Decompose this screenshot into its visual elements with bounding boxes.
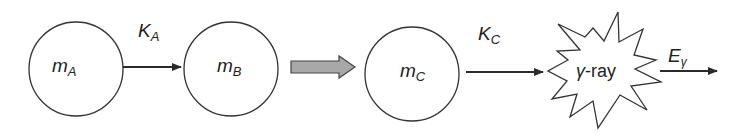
node-m-b: mB [184,22,278,116]
edge-egamma: Eγ [660,45,717,71]
edge-ka: KA [123,20,181,67]
edge-kc: KC [466,23,543,72]
decay-diagram: mA KA mB mC KC γ-ray [0,0,751,135]
gamma-ray-burst: γ-ray [548,12,661,128]
svg-text:Eγ: Eγ [668,45,688,69]
svg-text:KC: KC [478,23,501,47]
svg-text:KA: KA [138,20,159,44]
node-m-c: mC [365,27,459,121]
svg-text:γ-ray: γ-ray [576,61,616,81]
block-arrow [291,56,355,78]
node-m-a: mA [29,22,123,116]
